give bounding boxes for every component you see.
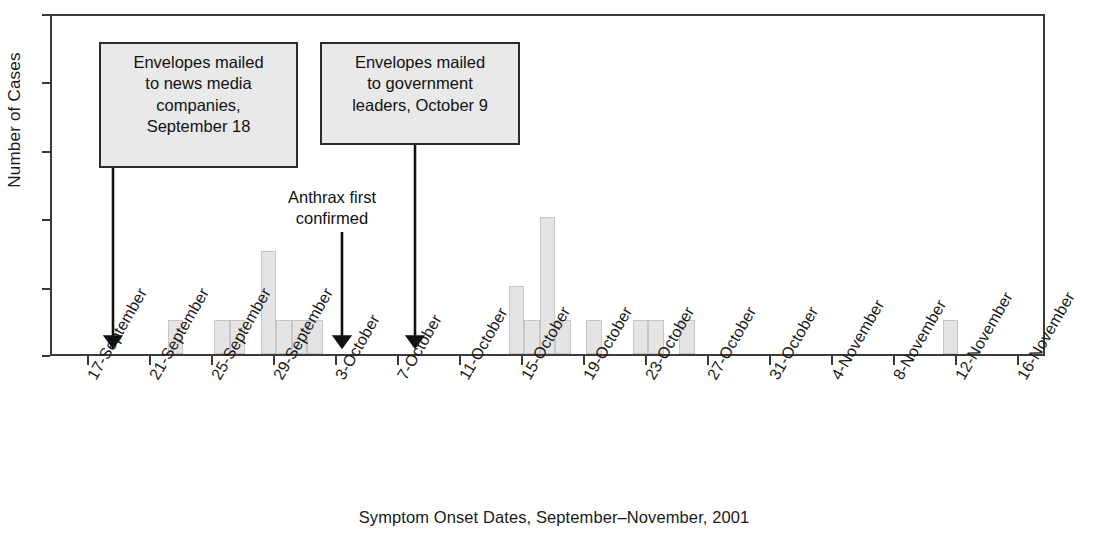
callout-line: to government xyxy=(328,73,512,94)
note-line: Anthrax first xyxy=(262,187,402,208)
y-tick-mark-4 xyxy=(42,219,50,221)
callout-line: leaders, October 9 xyxy=(328,95,512,116)
callout-line: to news media xyxy=(107,73,290,94)
bar xyxy=(943,320,959,354)
annotation-government-leaders-callout: Envelopes mailed to government leaders, … xyxy=(320,42,520,145)
y-tick-mark-2 xyxy=(42,288,50,290)
annotation-anthrax-first-confirmed: Anthrax first confirmed xyxy=(262,187,402,229)
callout-line: Envelopes mailed xyxy=(328,52,512,73)
bar xyxy=(509,286,525,354)
annotation-news-media-callout: Envelopes mailed to news media companies… xyxy=(99,42,298,168)
note-line: confirmed xyxy=(262,208,402,229)
bar xyxy=(633,320,649,354)
y-axis-title: Number of Cases xyxy=(5,10,25,230)
y-tick-mark-10 xyxy=(42,14,50,16)
callout-line: September 18 xyxy=(107,116,290,137)
y-tick-mark-6 xyxy=(42,151,50,153)
callout-line: companies, xyxy=(107,95,290,116)
callout-line: Envelopes mailed xyxy=(107,52,290,73)
epidemic-curve-chart: Number of Cases 10 8 6 4 2 0 17-Septembe… xyxy=(0,0,1108,538)
y-tick-mark-0 xyxy=(42,355,50,357)
y-tick-mark-8 xyxy=(42,82,50,84)
x-axis-title: Symptom Onset Dates, September–November,… xyxy=(0,508,1108,527)
